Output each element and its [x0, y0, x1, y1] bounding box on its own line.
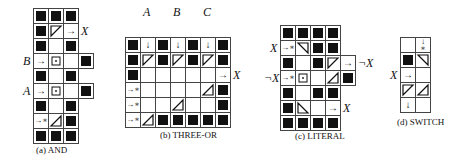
- grid-cell: [200, 97, 216, 113]
- caption-switch: (d) SWITCH: [397, 117, 444, 127]
- block-cell: [215, 52, 231, 68]
- block-cell: [295, 25, 311, 41]
- arrow-right-icon: →: [34, 84, 48, 98]
- arrow-right-star-icon: →∗: [126, 98, 140, 112]
- grid-cell: [415, 97, 431, 113]
- arrow-down-icon: ↓: [141, 38, 155, 52]
- grid-cell: [415, 52, 431, 68]
- signal-label: C: [203, 5, 211, 19]
- grid-cell: [48, 83, 64, 99]
- grid-cell: [48, 23, 64, 39]
- block-cell: [48, 128, 64, 144]
- arrow-right-icon: →: [341, 56, 355, 70]
- grid-cell: [200, 52, 216, 68]
- arrow-right-star-icon: →∗: [126, 113, 140, 127]
- block-cell: [215, 97, 231, 113]
- grid-cell: [185, 82, 201, 98]
- block-cell: [325, 85, 341, 101]
- grid-cell: →: [33, 83, 49, 99]
- arrow-right-icon: →: [34, 54, 48, 68]
- grid-cell: [295, 85, 311, 101]
- arrow-down-star-icon: ↓∗: [416, 38, 430, 52]
- block-cell: [125, 67, 141, 83]
- block-cell: [185, 52, 201, 68]
- triangle-lower-right-icon: [201, 83, 215, 97]
- block-cell: [155, 37, 171, 53]
- arrow-down-icon: ↓: [201, 38, 215, 52]
- block-cell: [63, 68, 79, 84]
- grid-cell: ↓: [400, 97, 416, 113]
- grid-cell: [63, 53, 79, 69]
- arrow-right-icon: →: [326, 101, 340, 115]
- grid-cell: [48, 68, 64, 84]
- grid-cell: [48, 113, 64, 129]
- grid-cell: [295, 100, 311, 116]
- block-cell: [310, 55, 326, 71]
- grid-cell: [295, 40, 311, 56]
- signal-label: ¬X: [264, 71, 279, 85]
- grid-cell: [295, 70, 311, 86]
- block-cell: [33, 128, 49, 144]
- grid-cell: →: [215, 67, 231, 83]
- target-box-icon: [49, 54, 63, 68]
- grid-cell: [200, 82, 216, 98]
- grid-cell: [140, 67, 156, 83]
- signal-label: X: [390, 68, 397, 82]
- triangle-upper-left-icon: [49, 24, 63, 38]
- grid-cell: [400, 82, 416, 98]
- grid-cell: [155, 97, 171, 113]
- block-cell: [33, 98, 49, 114]
- block-cell: [280, 100, 296, 116]
- block-cell: [125, 37, 141, 53]
- signal-label: X: [233, 68, 240, 82]
- block-cell: [280, 115, 296, 131]
- block-cell: [215, 112, 231, 128]
- triangle-upper-left-icon: [401, 83, 415, 97]
- grid-cell: [400, 37, 416, 53]
- arrow-right-star-icon: →∗: [281, 71, 295, 85]
- block-cell: [185, 112, 201, 128]
- grid-cell: [415, 67, 431, 83]
- target-box-icon: [296, 71, 310, 85]
- grid-cell: [185, 97, 201, 113]
- block-cell: [325, 40, 341, 56]
- grid-cell: [140, 112, 156, 128]
- grid-cell: [185, 67, 201, 83]
- arrow-down-icon: ↓: [401, 98, 415, 112]
- block-cell: [33, 38, 49, 54]
- arrow-right-star-icon: →∗: [281, 41, 295, 55]
- triangle-upper-left-icon: [171, 53, 185, 67]
- block-cell: [185, 37, 201, 53]
- block-cell: [310, 25, 326, 41]
- arrow-right-icon: →: [401, 68, 415, 82]
- block-cell: [155, 112, 171, 128]
- triangle-upper-left-icon: [141, 53, 155, 67]
- grid-cell: ↓∗: [415, 37, 431, 53]
- grid-cell: ↓: [170, 37, 186, 53]
- grid-cell: [415, 82, 431, 98]
- block-cell: [215, 82, 231, 98]
- triangle-lower-right-icon: [416, 83, 430, 97]
- triangle-lower-right-icon: [171, 98, 185, 112]
- block-cell: [295, 115, 311, 131]
- grid-cell: [170, 97, 186, 113]
- grid-cell: [63, 83, 79, 99]
- block-cell: [280, 25, 296, 41]
- block-cell: [170, 112, 186, 128]
- block-cell: [325, 115, 341, 131]
- grid-cell: ↓: [140, 37, 156, 53]
- block-cell: [310, 115, 326, 131]
- grid-cell: [140, 97, 156, 113]
- block-cell: [63, 128, 79, 144]
- block-cell: [215, 37, 231, 53]
- grid-cell: →∗: [125, 97, 141, 113]
- arrow-down-icon: ↓: [171, 38, 185, 52]
- grid-cell: →: [63, 23, 79, 39]
- block-cell: [325, 25, 341, 41]
- signal-label: B: [23, 54, 30, 68]
- triangle-lower-right-icon: [49, 114, 63, 128]
- block-cell: [125, 52, 141, 68]
- grid-cell: →∗: [125, 82, 141, 98]
- block-cell: [310, 85, 326, 101]
- block-cell: [33, 8, 49, 24]
